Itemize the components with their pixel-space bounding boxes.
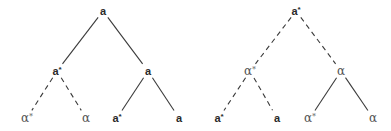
star-superscript: * [221, 112, 225, 121]
edges-layer [32, 17, 368, 110]
left-tree-edge-dashed [61, 78, 81, 111]
left-tree-edge-solid [108, 17, 143, 63]
right-tree-node-label: a* [291, 5, 301, 17]
left-tree-edge-solid [152, 78, 174, 111]
right-tree-edge-dashed [224, 78, 246, 111]
left-tree-node-label: α [82, 111, 90, 125]
right-tree-edge-dashed [301, 17, 336, 63]
star-superscript: * [29, 112, 33, 121]
left-tree-node-label: a [100, 5, 107, 17]
left-tree-edge-dashed [32, 78, 53, 111]
right-tree-edge-dashed [254, 78, 273, 110]
right-tree-node-label: a* [214, 112, 224, 124]
right-tree-edge-solid [346, 78, 368, 111]
right-tree-edge-dashed [255, 17, 291, 64]
tree-diagram: aa*aα*αa*aa*α*αa*aα*α [0, 0, 391, 131]
right-tree-node-label: α [337, 64, 345, 78]
left-tree-node-label: a* [52, 65, 62, 77]
right-tree-node-label: α* [244, 64, 256, 78]
right-tree-node-label: α* [304, 111, 316, 125]
star-superscript: * [252, 65, 256, 74]
right-tree-node-label: a [274, 112, 281, 124]
left-tree-node-label: a [176, 112, 183, 124]
left-tree-node-label: a* [112, 112, 122, 124]
right-tree-edge-solid [315, 78, 337, 111]
left-tree-edge-solid [62, 17, 98, 64]
star-superscript: * [312, 112, 316, 121]
star-superscript: * [298, 5, 302, 14]
star-superscript: * [119, 112, 123, 121]
nodes-layer: aa*aα*αa*aa*α*αa*aα*α [21, 5, 377, 125]
left-tree-node-label: a [145, 65, 152, 77]
left-tree-edge-solid [122, 78, 144, 111]
star-superscript: * [59, 65, 63, 74]
right-tree-node-label: α [369, 111, 377, 125]
left-tree-node-label: α* [21, 111, 33, 125]
